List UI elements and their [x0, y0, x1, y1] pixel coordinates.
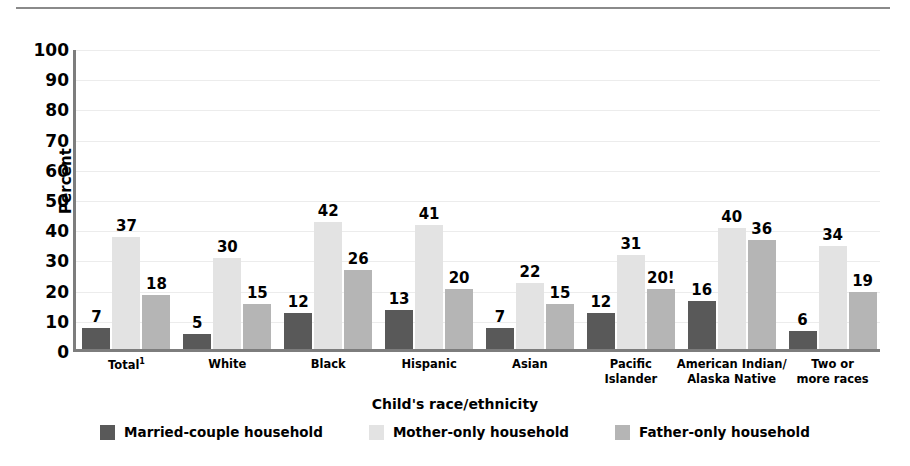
bar[interactable]: 5	[183, 334, 211, 349]
bar-group: 73718Total1	[76, 50, 177, 349]
bar-value-label: 30	[217, 240, 238, 255]
bar-value-label: 12	[288, 295, 309, 310]
bar-value-label: 16	[691, 283, 712, 298]
bar-value-label: 22	[520, 265, 541, 280]
bar-groups: 73718Total153015White124226Black134120Hi…	[76, 50, 880, 349]
bar-value-label: 31	[620, 237, 641, 252]
bar[interactable]: 16	[688, 301, 716, 349]
bar-value-label: 15	[247, 286, 268, 301]
bar[interactable]: 30	[213, 258, 241, 349]
bar[interactable]: 15	[243, 304, 271, 349]
header-divider	[16, 7, 890, 9]
bar[interactable]: 20!	[647, 289, 675, 349]
y-tick-0: 0	[5, 344, 69, 361]
bar[interactable]: 34	[819, 246, 847, 349]
bar-group: 123120!Pacific Islander	[580, 50, 681, 349]
bar-value-label: 12	[590, 295, 611, 310]
bar[interactable]: 20	[445, 289, 473, 349]
bar-value-label: 19	[852, 274, 873, 289]
y-tick-30: 30	[5, 253, 69, 270]
bar[interactable]: 42	[314, 222, 342, 349]
bar-value-label: 20!	[647, 271, 675, 286]
bar[interactable]: 6	[789, 331, 817, 349]
y-tick-50: 50	[5, 193, 69, 210]
bar[interactable]: 22	[516, 283, 544, 349]
legend-label: Mother-only household	[393, 424, 569, 440]
bar[interactable]: 18	[142, 295, 170, 349]
bar-value-label: 36	[751, 222, 772, 237]
bar-value-label: 34	[822, 228, 843, 243]
legend-swatch-icon	[615, 425, 630, 440]
x-axis-category-label: Two or more races	[773, 357, 893, 387]
bar-group: 53015White	[177, 50, 278, 349]
bar-group: 72215Asian	[480, 50, 581, 349]
bar[interactable]: 31	[617, 255, 645, 349]
bar-value-label: 40	[721, 210, 742, 225]
bar[interactable]: 41	[415, 225, 443, 349]
bar-group: 134120Hispanic	[379, 50, 480, 349]
bar-value-label: 18	[146, 277, 167, 292]
bar-value-label: 6	[797, 313, 807, 328]
legend-swatch-icon	[369, 425, 384, 440]
bar-value-label: 7	[91, 310, 101, 325]
y-tick-20: 20	[5, 283, 69, 300]
bar[interactable]: 15	[546, 304, 574, 349]
bar[interactable]: 36	[748, 240, 776, 349]
bar[interactable]: 37	[112, 237, 140, 349]
bar[interactable]: 13	[385, 310, 413, 349]
bar-value-label: 20	[449, 271, 470, 286]
bar-group: 164036American Indian/ Alaska Native	[681, 50, 782, 349]
bar-value-label: 15	[550, 286, 571, 301]
x-axis-title: Child's race/ethnicity	[0, 396, 910, 412]
y-tick-60: 60	[5, 162, 69, 179]
bar-chart-figure: Percent 0102030405060708090100 73718Tota…	[0, 0, 910, 466]
bar-value-label: 13	[389, 292, 410, 307]
bar[interactable]: 12	[587, 313, 615, 349]
y-tick-80: 80	[5, 102, 69, 119]
bar[interactable]: 7	[486, 328, 514, 349]
bar[interactable]: 19	[849, 292, 877, 349]
bar-value-label: 5	[192, 316, 202, 331]
y-tick-70: 70	[5, 132, 69, 149]
y-tick-10: 10	[5, 313, 69, 330]
bar-value-label: 42	[318, 204, 339, 219]
legend-label: Married-couple household	[124, 424, 323, 440]
bar-value-label: 26	[348, 252, 369, 267]
bar-group: 124226Black	[278, 50, 379, 349]
legend-item[interactable]: Father-only household	[615, 424, 810, 440]
y-tick-90: 90	[5, 72, 69, 89]
bar-group: 63419Two or more races	[782, 50, 883, 349]
legend-item[interactable]: Mother-only household	[369, 424, 569, 440]
y-tick-40: 40	[5, 223, 69, 240]
bar[interactable]: 12	[284, 313, 312, 349]
bar-value-label: 37	[116, 219, 137, 234]
chart-legend: Married-couple householdMother-only hous…	[0, 424, 910, 440]
bar-value-label: 7	[495, 310, 505, 325]
legend-label: Father-only household	[639, 424, 810, 440]
bar[interactable]: 40	[718, 228, 746, 349]
legend-item[interactable]: Married-couple household	[100, 424, 323, 440]
bar-value-label: 41	[419, 207, 440, 222]
bar[interactable]: 26	[344, 270, 372, 349]
bar[interactable]: 7	[82, 328, 110, 349]
y-tick-100: 100	[5, 42, 69, 59]
legend-swatch-icon	[100, 425, 115, 440]
plot-area: 0102030405060708090100 73718Total153015W…	[73, 50, 880, 352]
